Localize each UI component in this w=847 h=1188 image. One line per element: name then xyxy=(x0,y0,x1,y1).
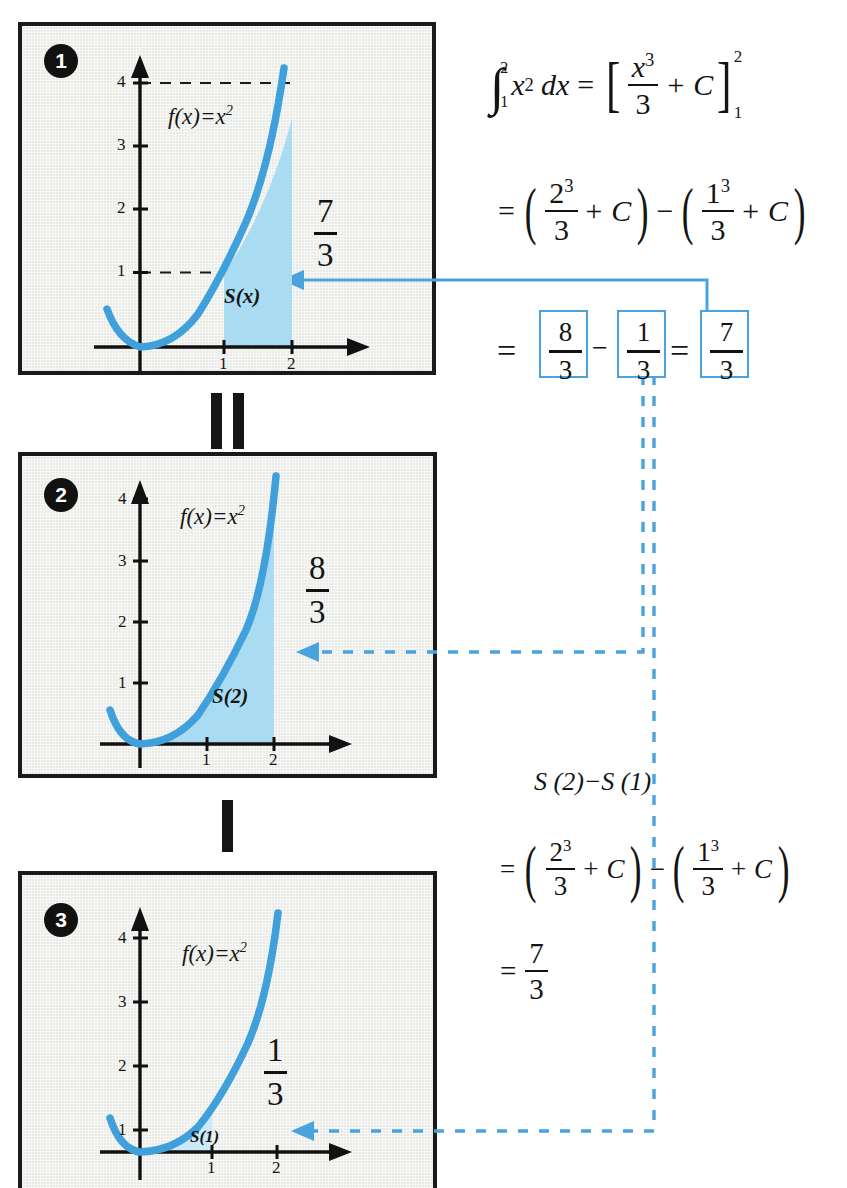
minus-line3: − xyxy=(592,332,608,364)
box-c-numerator: 7 xyxy=(702,318,751,347)
box-c-denominator: 3 xyxy=(702,356,751,385)
panel-3-badge: 3 xyxy=(44,903,78,937)
panel-2: 2 f(x)=x2 S(2) 8 3 4 3 2 1 1 2 xyxy=(18,452,437,778)
panel-3-xtick-2: 2 xyxy=(272,1158,281,1178)
panel-3-area-label: S(1) xyxy=(190,1127,219,1147)
equation-bottom-line-3: = 7 3 xyxy=(500,938,551,1005)
panel-2-xtick-1: 1 xyxy=(202,750,211,770)
panel-3-fraction-denominator: 3 xyxy=(262,1077,289,1112)
panel-3-graph xyxy=(22,875,441,1188)
panel-3-ytick-3: 3 xyxy=(118,992,127,1012)
panel-1-ytick-2: 2 xyxy=(117,198,126,218)
panel-1-graph xyxy=(22,26,440,379)
bracket-open: [ xyxy=(606,60,620,110)
paren-open: ( xyxy=(673,847,685,892)
panel-3-ytick-4: 4 xyxy=(118,928,127,948)
panel-1-fraction-denominator: 3 xyxy=(312,238,339,273)
panel-1-ytick-1: 1 xyxy=(117,261,126,281)
panel-1-xtick-2: 2 xyxy=(287,354,296,374)
panel-2-xtick-2: 2 xyxy=(269,750,278,770)
panel-3-fraction-numerator: 1 xyxy=(262,1033,289,1068)
panel-2-ytick-4: 4 xyxy=(118,489,127,509)
paren-open: ( xyxy=(525,189,537,234)
panel-1-fraction-numerator: 7 xyxy=(312,194,339,229)
panel-3-ytick-1: 1 xyxy=(118,1120,127,1140)
panel-1: 1 f(x)=x2 S(x) 7 3 4 3 2 1 1 2 xyxy=(18,22,436,375)
fraction-bar xyxy=(549,350,582,353)
box-b-numerator: 1 xyxy=(619,318,668,347)
panel-2-fraction-denominator: 3 xyxy=(304,595,331,630)
box-a-numerator: 8 xyxy=(541,318,590,347)
panel-3-function-label: f(x)=x2 xyxy=(182,941,247,967)
panel-3-ytick-2: 2 xyxy=(118,1056,127,1076)
panel-1-badge: 1 xyxy=(44,44,78,78)
paren-close: ) xyxy=(794,189,806,234)
panel-1-ytick-4: 4 xyxy=(117,72,126,92)
boxed-fraction-7-3: 7 3 xyxy=(700,310,749,378)
panel-1-function-label: f(x)=x2 xyxy=(168,104,233,130)
equation-bottom-line-2: = ( 23 3 + C ) − ( 13 3 + C ) xyxy=(500,830,795,908)
fraction-bar xyxy=(306,589,329,592)
equation-top-line-2: = ( 23 3 + C ) − ( 13 3 + C ) xyxy=(498,172,811,250)
panel-2-area-label: S(2) xyxy=(212,684,248,709)
box-a-denominator: 3 xyxy=(541,356,590,385)
equals-lead-line3: = xyxy=(497,332,516,370)
paren-open: ( xyxy=(681,189,693,234)
panel-2-fraction: 8 3 xyxy=(304,551,331,630)
panel-1-ytick-3: 3 xyxy=(117,135,126,155)
integral-icon: ∫ xyxy=(490,66,504,108)
paren-close: ) xyxy=(637,189,649,234)
panel-3: 3 f(x)=x2 S(1) 1 3 4 3 2 1 1 2 xyxy=(18,871,437,1188)
fraction-bar xyxy=(627,350,660,353)
box-b-denominator: 3 xyxy=(619,356,668,385)
panel-2-function-label: f(x)=x2 xyxy=(180,504,245,530)
fraction-bar xyxy=(710,350,743,353)
panel-2-fraction-numerator: 8 xyxy=(304,551,331,586)
panel-1-fraction: 7 3 xyxy=(312,194,339,273)
panel-2-ytick-1: 1 xyxy=(118,673,127,693)
boxed-fraction-8-3: 8 3 xyxy=(539,310,588,378)
paren-close: ) xyxy=(630,847,642,892)
equation-bottom-line-1: S (2)−S (1) xyxy=(534,767,651,797)
panel-1-xtick-1: 1 xyxy=(219,354,228,374)
fraction-bar xyxy=(264,1071,287,1074)
result-numerator: 7 xyxy=(525,938,548,968)
minus-sign-2-3 xyxy=(222,800,233,852)
panel-2-badge: 2 xyxy=(44,478,78,512)
equation-top-line-1: 2 1 ∫ x2 dx = [ x3 3 + C ] 2 1 xyxy=(490,46,742,124)
panel-3-fraction: 1 3 xyxy=(262,1033,289,1112)
boxed-fraction-1-3: 1 3 xyxy=(617,310,666,378)
equals-mid-line3: = xyxy=(670,332,689,370)
panel-2-ytick-2: 2 xyxy=(118,612,127,632)
paren-open: ( xyxy=(525,847,537,892)
panel-2-ytick-3: 3 xyxy=(118,551,127,571)
panel-1-area-label: S(x) xyxy=(224,284,260,309)
result-denominator: 3 xyxy=(525,974,548,1004)
bracket-close: ] xyxy=(717,60,731,110)
fraction-bar xyxy=(314,232,337,235)
paren-close: ) xyxy=(778,847,790,892)
panel-3-xtick-1: 1 xyxy=(207,1158,216,1178)
